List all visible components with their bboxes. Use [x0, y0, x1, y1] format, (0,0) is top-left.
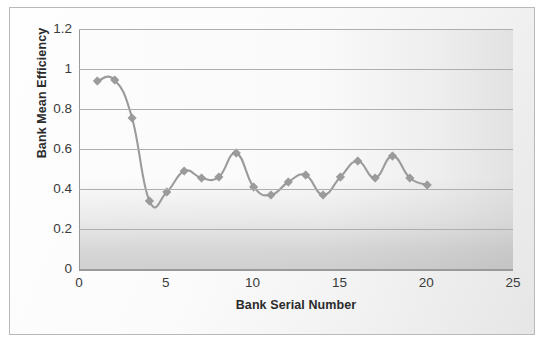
- data-point-marker: [93, 77, 101, 85]
- gridline: [79, 109, 513, 110]
- data-point-marker: [145, 197, 153, 205]
- gridline: [79, 149, 513, 150]
- gridline: [79, 69, 513, 70]
- y-tick-label: 0.2: [26, 222, 72, 236]
- data-point-marker: [128, 114, 136, 122]
- gridline: [79, 229, 513, 230]
- x-tick-label: 20: [406, 276, 446, 290]
- x-tick-label: 10: [233, 276, 273, 290]
- y-tick-label: 1: [26, 62, 72, 76]
- data-point-marker: [354, 157, 362, 165]
- x-tick-label: 15: [319, 276, 359, 290]
- gridline: [79, 269, 513, 271]
- y-tick-label: 0.6: [26, 142, 72, 156]
- data-point-marker: [388, 152, 396, 160]
- chart-frame: Bank Mean Efficiency Bank Serial Number …: [9, 7, 535, 335]
- x-tick-label: 5: [146, 276, 186, 290]
- series-line: [97, 77, 427, 208]
- data-point-marker: [423, 181, 431, 189]
- gridline: [79, 189, 513, 190]
- x-axis-title: Bank Serial Number: [79, 298, 513, 312]
- chart-inner: Bank Mean Efficiency Bank Serial Number …: [10, 8, 534, 334]
- gridline: [79, 29, 513, 30]
- y-tick-label: 0.4: [26, 182, 72, 196]
- data-point-marker: [319, 191, 327, 199]
- y-tick-label: 0: [26, 262, 72, 276]
- x-tick-label: 25: [493, 276, 533, 290]
- x-tick-label: 0: [59, 276, 99, 290]
- data-point-marker: [197, 174, 205, 182]
- y-tick-label: 1.2: [26, 22, 72, 36]
- data-point-marker: [267, 191, 275, 199]
- y-tick-label: 0.8: [26, 102, 72, 116]
